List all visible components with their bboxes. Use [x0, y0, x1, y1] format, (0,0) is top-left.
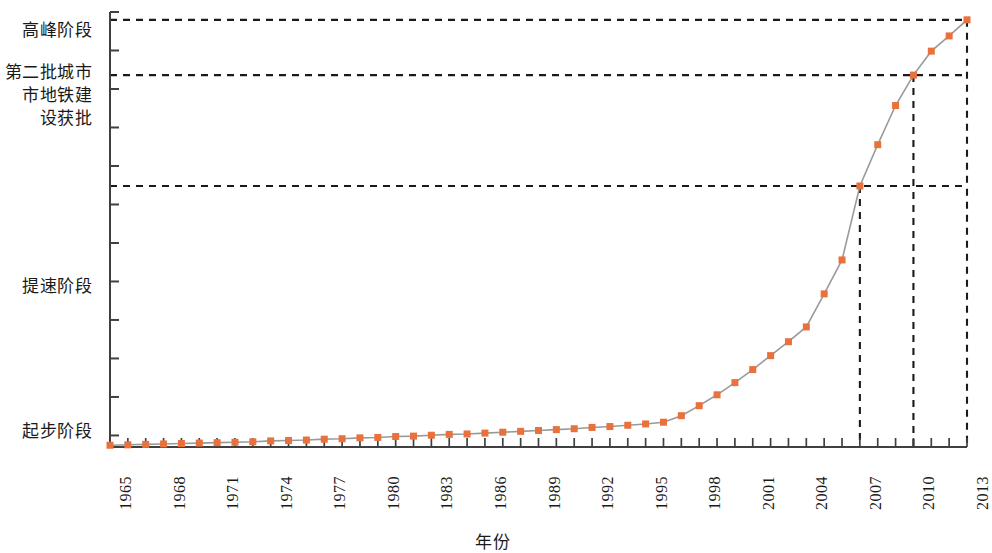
- x-axis-tick-label-1974: 1974: [278, 476, 296, 510]
- data-point-2013: [964, 16, 971, 23]
- data-point-2007: [856, 183, 863, 190]
- data-point-1983: [428, 432, 435, 439]
- x-axis-tick-label-1971: 1971: [224, 476, 242, 510]
- data-point-2010: [910, 72, 917, 79]
- data-point-1991: [571, 425, 578, 432]
- x-axis-tick-label-1998: 1998: [706, 476, 724, 510]
- data-line-group: [110, 20, 967, 445]
- data-point-2001: [749, 366, 756, 373]
- data-point-1980: [374, 434, 381, 441]
- data-point-1984: [446, 431, 453, 438]
- annotation-hlines-group: [110, 20, 967, 186]
- data-point-1976: [303, 437, 310, 444]
- x-axis-title: 年份: [0, 528, 985, 553]
- data-point-2005: [821, 290, 828, 297]
- data-point-2006: [839, 256, 846, 263]
- data-point-2004: [803, 323, 810, 330]
- x-axis-tick-label-1983: 1983: [438, 476, 456, 510]
- data-point-1992: [589, 424, 596, 431]
- x-axis-tick-label-2001: 2001: [760, 476, 778, 510]
- data-point-1999: [714, 391, 721, 398]
- x-axis-tick-label-1989: 1989: [546, 476, 564, 510]
- x-axis-tick-label-1980: 1980: [385, 476, 403, 510]
- data-point-1982: [410, 433, 417, 440]
- data-point-1978: [339, 435, 346, 442]
- data-point-1988: [517, 428, 524, 435]
- x-axis-tick-label-1992: 1992: [599, 476, 617, 510]
- data-markers-group: [107, 16, 971, 448]
- data-point-1987: [499, 429, 506, 436]
- x-axis-tick-label-1986: 1986: [492, 476, 510, 510]
- data-point-2008: [874, 141, 881, 148]
- data-point-1994: [624, 422, 631, 429]
- axes-group: [110, 12, 967, 447]
- data-point-1968: [160, 440, 167, 447]
- data-line: [110, 20, 967, 445]
- data-point-1977: [321, 436, 328, 443]
- data-point-1981: [392, 433, 399, 440]
- data-point-1985: [464, 430, 471, 437]
- x-axis-tick-label-1995: 1995: [653, 476, 671, 510]
- data-point-1973: [249, 438, 256, 445]
- data-point-2011: [928, 48, 935, 55]
- data-point-1997: [678, 412, 685, 419]
- x-axis-tick-label-1968: 1968: [171, 476, 189, 510]
- x-axis-tick-label-1965: 1965: [117, 476, 135, 510]
- data-point-1993: [606, 423, 613, 430]
- data-point-2003: [785, 338, 792, 345]
- data-point-2002: [767, 352, 774, 359]
- data-point-2009: [892, 102, 899, 109]
- data-point-1969: [178, 440, 185, 447]
- data-point-2012: [946, 32, 953, 39]
- data-point-1965: [107, 442, 114, 449]
- data-point-1998: [696, 402, 703, 409]
- data-point-1975: [285, 437, 292, 444]
- data-point-1970: [196, 440, 203, 447]
- x-axis-tick-label-2010: 2010: [920, 476, 938, 510]
- data-point-1972: [231, 439, 238, 446]
- x-axis-tick-label-1977: 1977: [331, 476, 349, 510]
- annotation-vlines-group: [860, 20, 967, 447]
- x-axis-tick-label-2013: 2013: [974, 476, 992, 510]
- data-point-1990: [553, 426, 560, 433]
- data-point-1989: [535, 427, 542, 434]
- data-point-1979: [356, 434, 363, 441]
- x-axis-tick-label-2004: 2004: [813, 476, 831, 510]
- data-point-1995: [642, 420, 649, 427]
- data-point-1974: [267, 437, 274, 444]
- x-axis-tick-label-2007: 2007: [867, 476, 885, 510]
- data-point-1996: [660, 419, 667, 426]
- data-point-1971: [214, 439, 221, 446]
- data-point-1966: [124, 441, 131, 448]
- data-point-1967: [142, 441, 149, 448]
- data-point-2000: [731, 379, 738, 386]
- data-point-1986: [481, 430, 488, 437]
